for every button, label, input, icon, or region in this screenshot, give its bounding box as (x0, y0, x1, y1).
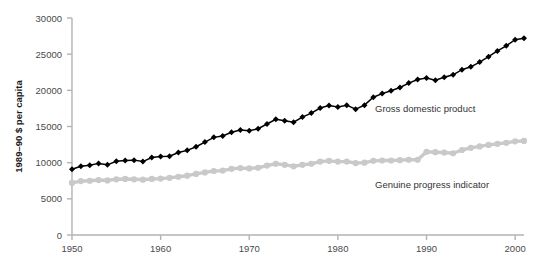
chart-container: 0500010000150002000025000300001950196019… (0, 0, 537, 266)
data-point-gpi (406, 157, 412, 163)
data-point-gpi (494, 141, 500, 147)
x-tick-label: 1970 (239, 243, 260, 254)
data-point-gdp (184, 147, 190, 153)
data-point-gdp (104, 162, 110, 168)
data-point-gdp (468, 64, 474, 70)
data-point-gdp (273, 116, 279, 122)
data-point-gdp (441, 74, 447, 80)
data-point-gpi (113, 176, 119, 182)
data-point-gpi (246, 165, 252, 171)
data-point-gpi (87, 178, 93, 184)
data-point-gpi (290, 163, 296, 169)
x-tick-label: 2000 (505, 243, 526, 254)
data-point-gdp (87, 162, 93, 168)
data-point-gpi (468, 145, 474, 151)
data-point-gpi (423, 149, 429, 155)
data-point-gdp (149, 155, 155, 161)
data-point-gdp (353, 106, 359, 112)
data-point-gpi (521, 138, 527, 144)
data-point-gpi (361, 160, 367, 166)
data-point-gdp (406, 80, 412, 86)
data-point-gdp (379, 91, 385, 97)
data-point-gdp (96, 160, 102, 166)
data-point-gpi (344, 158, 350, 164)
data-point-gdp (335, 104, 341, 110)
x-tick-label: 1950 (61, 243, 82, 254)
data-point-gpi (264, 162, 270, 168)
data-point-gpi (122, 176, 128, 182)
data-point-gpi (353, 160, 359, 166)
data-point-gpi (158, 175, 164, 181)
y-tick-label: 15000 (36, 121, 62, 132)
data-point-gdp (78, 163, 84, 169)
data-point-gdp (113, 158, 119, 164)
data-point-gpi (140, 177, 146, 183)
data-point-gpi (237, 165, 243, 171)
data-point-gpi (149, 176, 155, 182)
data-point-gdp (264, 121, 270, 127)
data-point-gdp (246, 128, 252, 134)
data-point-gdp (291, 119, 297, 125)
data-point-gpi (228, 166, 234, 172)
data-point-gdp (220, 133, 226, 139)
data-point-gdp (175, 150, 181, 156)
data-point-gdp (521, 35, 527, 41)
data-point-gpi (273, 161, 279, 167)
data-point-gpi (175, 174, 181, 180)
data-point-gdp (326, 103, 332, 109)
data-point-gpi (432, 149, 438, 155)
series-annotation-gdp: Gross domestic product (375, 103, 476, 114)
data-point-gpi (95, 177, 101, 183)
series-annotation-gpi: Genuine progress indicator (375, 179, 489, 190)
data-point-gdp (211, 134, 217, 140)
data-point-gpi (379, 157, 385, 163)
data-point-gpi (308, 161, 314, 167)
y-tick-label: 5000 (41, 193, 62, 204)
data-point-gdp (237, 127, 243, 133)
data-point-gdp (166, 153, 172, 159)
data-point-gdp (229, 129, 235, 135)
data-point-gdp (282, 118, 288, 124)
y-tick-label: 25000 (36, 49, 62, 60)
data-point-gpi (184, 173, 190, 179)
data-point-gpi (512, 138, 518, 144)
data-point-gdp (140, 159, 146, 165)
data-point-gpi (78, 178, 84, 184)
y-tick-label: 20000 (36, 85, 62, 96)
data-point-gdp (193, 144, 199, 150)
x-tick-label: 1980 (327, 243, 348, 254)
data-point-gdp (459, 67, 465, 73)
line-chart: 0500010000150002000025000300001950196019… (0, 0, 537, 266)
x-tick-label: 1960 (150, 243, 171, 254)
data-point-gdp (308, 110, 314, 116)
x-tick-label: 1990 (416, 243, 437, 254)
data-point-gdp (69, 166, 75, 172)
data-point-gpi (193, 171, 199, 177)
data-point-gpi (397, 157, 403, 163)
data-point-gpi (326, 158, 332, 164)
data-point-gpi (166, 175, 172, 181)
data-point-gpi (131, 176, 137, 182)
data-point-gdp (158, 154, 164, 160)
data-point-gpi (503, 140, 509, 146)
data-point-gpi (335, 158, 341, 164)
data-point-gdp (388, 88, 394, 94)
data-point-gpi (388, 157, 394, 163)
data-point-gdp (415, 76, 421, 82)
data-point-gdp (432, 77, 438, 83)
data-point-gpi (211, 168, 217, 174)
data-point-gpi (370, 158, 376, 164)
data-point-gdp (131, 157, 137, 163)
y-axis-title: 1989–90 $ per capita (13, 80, 24, 173)
data-point-gdp (344, 102, 350, 108)
data-point-gpi (317, 158, 323, 164)
data-point-gpi (477, 143, 483, 149)
y-tick-label: 0 (57, 230, 62, 241)
data-point-gdp (122, 158, 128, 164)
data-point-gpi (415, 157, 421, 163)
data-point-gpi (299, 162, 305, 168)
data-point-gpi (104, 177, 110, 183)
data-point-gpi (459, 147, 465, 153)
data-point-gpi (220, 168, 226, 174)
data-point-gpi (69, 180, 75, 186)
